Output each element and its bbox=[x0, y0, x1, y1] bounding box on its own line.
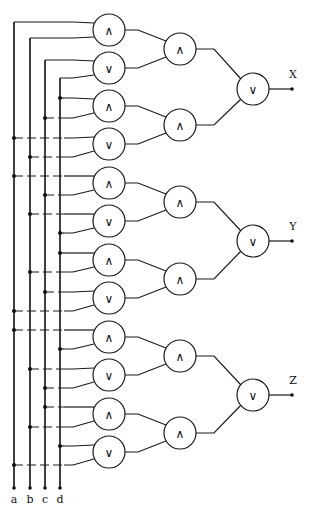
gate-symbol: ∧ bbox=[105, 408, 114, 422]
output-terminal-dot bbox=[290, 87, 294, 91]
layer2-gates: ∧∧∧∧∧∧ bbox=[125, 30, 196, 452]
tap-g3-c bbox=[43, 113, 94, 120]
tap-g1-a bbox=[14, 22, 94, 23]
gate-symbol: ∧ bbox=[176, 273, 185, 287]
tap-g4-b bbox=[28, 151, 94, 159]
gate-symbol: ∨ bbox=[105, 369, 114, 383]
outputs: XYZ bbox=[269, 68, 297, 397]
gate-h3: ∧ bbox=[164, 186, 196, 218]
junction-dot bbox=[58, 251, 62, 255]
junction-dot bbox=[58, 444, 62, 448]
junction-dot bbox=[43, 386, 47, 390]
tap-g5-c bbox=[43, 190, 94, 197]
junction-dot bbox=[58, 231, 62, 235]
gate-symbol: ∨ bbox=[249, 83, 258, 97]
gate-symbol: ∨ bbox=[249, 389, 258, 403]
tap-g10-c bbox=[43, 382, 94, 390]
junction-dot bbox=[58, 96, 62, 100]
tap-g9-a bbox=[12, 328, 94, 332]
junction-dot bbox=[28, 212, 32, 216]
tap-g6-b bbox=[28, 212, 94, 216]
input-label-d: d bbox=[56, 493, 63, 506]
output-Y: Y bbox=[269, 220, 297, 243]
junction-dot bbox=[28, 270, 32, 274]
gate-g5: ∧ bbox=[93, 167, 125, 199]
tap-g11-c bbox=[43, 405, 94, 409]
tap-g7-b bbox=[28, 267, 94, 274]
logic-circuit-diagram: abcd ∧∨∧∨∧∨∧∨∧∨∧∨ ∧∧∧∧∧∧ ∨∨∨ XYZ bbox=[0, 0, 310, 512]
tap-g2-d bbox=[60, 75, 94, 78]
wire-g10-h5 bbox=[125, 364, 166, 375]
tap-g8-a bbox=[12, 305, 94, 313]
gate-symbol: ∨ bbox=[105, 215, 114, 229]
input-label-a: a bbox=[11, 493, 18, 506]
gate-symbol: ∧ bbox=[176, 350, 185, 364]
tap-g7-d bbox=[58, 251, 94, 255]
input-label-b: b bbox=[26, 493, 33, 506]
gate-h6: ∧ bbox=[164, 417, 196, 449]
tap-g12-a bbox=[12, 459, 94, 467]
wire-h1-k1 bbox=[196, 49, 241, 79]
wire-g7-h4 bbox=[125, 260, 166, 271]
output-X: X bbox=[269, 68, 297, 91]
junction-dot bbox=[43, 290, 47, 294]
gate-symbol: ∨ bbox=[105, 138, 114, 152]
gate-g10: ∨ bbox=[93, 359, 125, 391]
junction-dot bbox=[43, 405, 47, 409]
wire-g5-h3 bbox=[125, 183, 166, 194]
gate-g8: ∨ bbox=[93, 282, 125, 314]
gate-symbol: ∨ bbox=[105, 62, 114, 76]
junction-dot bbox=[28, 367, 32, 371]
junction-dot bbox=[28, 425, 32, 429]
gate-symbol: ∨ bbox=[105, 292, 114, 306]
terminal-dot bbox=[28, 486, 32, 490]
gate-g9: ∧ bbox=[93, 321, 125, 353]
junction-dot bbox=[12, 309, 16, 313]
junction-dot bbox=[28, 155, 32, 159]
gate-h1: ∧ bbox=[164, 33, 196, 65]
output-terminal-dot bbox=[290, 393, 294, 397]
gate-g2: ∨ bbox=[93, 52, 125, 84]
junction-dot bbox=[43, 116, 47, 120]
tap-g9-d bbox=[58, 344, 94, 351]
gate-symbol: ∧ bbox=[105, 24, 114, 38]
gate-g6: ∨ bbox=[93, 205, 125, 237]
gate-g12: ∨ bbox=[93, 436, 125, 468]
wire-g1-h1 bbox=[125, 30, 166, 41]
junction-dot bbox=[58, 347, 62, 351]
wire-g12-h6 bbox=[125, 441, 166, 452]
terminal-dot bbox=[12, 486, 16, 490]
wire-h3-k2 bbox=[196, 202, 241, 231]
gate-symbol: ∧ bbox=[105, 177, 114, 191]
gate-symbol: ∨ bbox=[249, 235, 258, 249]
tap-g10-b bbox=[28, 367, 94, 371]
gate-symbol: ∧ bbox=[105, 254, 114, 268]
gate-g11: ∧ bbox=[93, 398, 125, 430]
gate-g1: ∧ bbox=[93, 14, 125, 46]
junction-dot bbox=[43, 193, 47, 197]
wire-g8-h4 bbox=[125, 287, 166, 298]
tap-g8-c bbox=[43, 290, 94, 294]
gate-h2: ∧ bbox=[164, 109, 196, 141]
input-bus-c: c bbox=[42, 60, 48, 506]
gate-g7: ∧ bbox=[93, 244, 125, 276]
input-buses: abcd bbox=[11, 22, 64, 506]
wire-g6-h3 bbox=[125, 210, 166, 221]
output-Z: Z bbox=[269, 374, 297, 397]
gate-symbol: ∧ bbox=[176, 427, 185, 441]
terminal-dot bbox=[43, 486, 47, 490]
wire-g3-h2 bbox=[125, 106, 166, 117]
junction-dot bbox=[12, 174, 16, 178]
tap-g11-b bbox=[28, 421, 94, 429]
gate-g4: ∨ bbox=[93, 128, 125, 160]
tap-g6-d bbox=[58, 228, 94, 235]
gate-symbol: ∧ bbox=[105, 100, 114, 114]
gate-symbol: ∧ bbox=[176, 119, 185, 133]
input-label-c: c bbox=[42, 493, 48, 506]
terminal-dot bbox=[58, 486, 62, 490]
wire-h5-k3 bbox=[196, 356, 241, 385]
input-taps bbox=[12, 22, 94, 467]
junction-dot bbox=[12, 136, 16, 140]
gate-g3: ∧ bbox=[93, 90, 125, 122]
gate-symbol: ∨ bbox=[105, 446, 114, 460]
